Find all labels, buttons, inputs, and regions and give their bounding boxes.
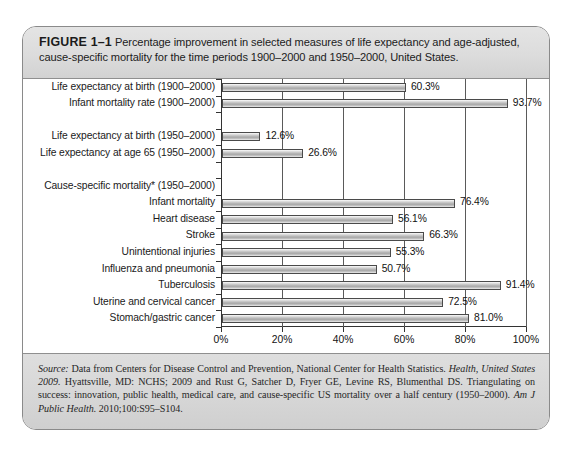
category-label: Life expectancy at age 65 (1950–2000) (22, 147, 221, 158)
bar-value-label: 81.0% (474, 312, 503, 323)
caption-line-1: FIGURE 1–1 Percentage improvement in sel… (39, 35, 535, 50)
category-label: Heart disease (22, 213, 221, 224)
y-axis-tick (216, 277, 221, 278)
bar-value-label: 66.3% (429, 229, 458, 240)
category-label: Influenza and pneumonia (22, 263, 221, 274)
category-label: Life expectancy at birth (1900–2000) (22, 81, 221, 92)
y-axis-tick (216, 228, 221, 229)
chart-bar (222, 248, 391, 257)
chart-bar (222, 281, 501, 290)
x-tick-label: 40% (323, 334, 363, 345)
category-axis-labels: Life expectancy at birth (1900–2000)Infa… (23, 79, 221, 327)
y-axis-tick (216, 162, 221, 163)
y-axis-tick (216, 79, 221, 80)
chart-axes: 60.3%93.7%12.6%26.6%76.4%56.1%66.3%55.3%… (221, 79, 526, 327)
chart-bar (222, 199, 455, 208)
category-label: Unintentional injuries (22, 246, 221, 257)
category-label: Stroke (22, 229, 221, 240)
chart-bar (222, 99, 508, 108)
y-axis-tick (216, 244, 221, 245)
chart-bar (222, 265, 377, 274)
y-axis-tick (216, 112, 221, 113)
bar-value-label: 12.6% (265, 130, 294, 141)
y-axis-tick (216, 261, 221, 262)
y-axis-tick (216, 294, 221, 295)
y-axis-tick (216, 178, 221, 179)
source-part-1: Data from Centers for Disease Control an… (69, 363, 449, 374)
x-axis-line (221, 326, 526, 327)
category-label: Life expectancy at birth (1950–2000) (22, 130, 221, 141)
bar-value-label: 50.7% (382, 263, 411, 274)
chart-bar (222, 132, 260, 141)
x-axis-tick (221, 327, 222, 332)
chart-plot-region: Life expectancy at birth (1900–2000)Infa… (23, 79, 549, 379)
category-label: Cause-specific mortality* (1950–2000) (22, 180, 221, 191)
x-axis-tick (282, 327, 283, 332)
source-part-3: 2010;100:S95–S104. (96, 403, 183, 414)
y-axis-tick (216, 327, 221, 328)
bar-value-label: 56.1% (398, 213, 427, 224)
x-axis-tick (343, 327, 344, 332)
x-tick-label: 100% (506, 334, 546, 345)
x-tick-label: 20% (262, 334, 302, 345)
y-axis-tick (216, 145, 221, 146)
category-label: Infant mortality (22, 196, 221, 207)
x-axis-tick (465, 327, 466, 332)
source-band: Source: Data from Centers for Disease Co… (23, 353, 549, 429)
source-part-2: Hyattsville, MD: NCHS; 2009 and Rust G, … (38, 376, 535, 400)
chart-bar (222, 215, 393, 224)
figure-box: FIGURE 1–1 Percentage improvement in sel… (22, 26, 550, 430)
bar-value-label: 93.7% (513, 97, 542, 108)
bar-value-label: 72.5% (448, 296, 477, 307)
chart-bar (222, 232, 424, 241)
x-tick-label: 0% (201, 334, 241, 345)
x-tick-label: 60% (384, 334, 424, 345)
bar-value-label: 60.3% (411, 81, 440, 92)
x-axis-tick (404, 327, 405, 332)
bar-value-label: 76.4% (460, 196, 489, 207)
caption-text-1: Percentage improvement in selected measu… (115, 36, 520, 48)
bar-value-label: 55.3% (396, 246, 425, 257)
y-axis-tick (216, 96, 221, 97)
chart-bar (222, 314, 469, 323)
chart-bar (222, 298, 443, 307)
category-label: Uterine and cervical cancer (22, 296, 221, 307)
y-axis-tick (216, 195, 221, 196)
chart-bar (222, 83, 406, 92)
x-tick-label: 80% (445, 334, 485, 345)
y-axis-tick (216, 211, 221, 212)
category-label: Stomach/gastric cancer (22, 312, 221, 323)
category-label: Tuberculosis (22, 279, 221, 290)
caption-line-2: cause-specific mortality for the time pe… (39, 50, 535, 65)
y-axis-tick (216, 310, 221, 311)
category-label: Infant mortality rate (1900–2000) (22, 97, 221, 108)
source-text: Source: Data from Centers for Disease Co… (38, 362, 535, 415)
x-axis-tick (526, 327, 527, 332)
figure-caption-band: FIGURE 1–1 Percentage improvement in sel… (23, 27, 549, 79)
figure-number-label: FIGURE 1–1 (39, 35, 112, 49)
bar-value-label: 91.4% (506, 279, 535, 290)
chart-bar (222, 149, 303, 158)
source-label: Source: (38, 363, 69, 374)
y-axis-tick (216, 129, 221, 130)
bar-value-label: 26.6% (308, 147, 337, 158)
